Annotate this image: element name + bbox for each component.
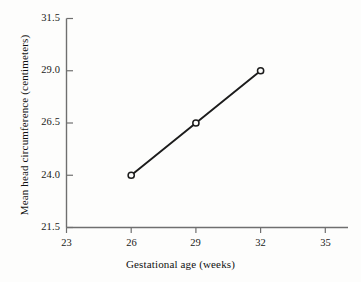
data-point <box>128 172 134 178</box>
chart-figure: 31.5 29.0 26.5 24.0 21.5 23 26 29 32 35 … <box>0 0 361 282</box>
y-tick-marks <box>67 19 74 228</box>
x-tick-label-35: 35 <box>309 237 342 248</box>
y-axis-title: Mean head circumference (centimeters) <box>18 15 30 235</box>
x-tick-label-23: 23 <box>50 237 83 248</box>
x-tick-label-29: 29 <box>179 237 212 248</box>
x-tick-marks <box>67 228 326 234</box>
x-tick-label-26: 26 <box>115 237 148 248</box>
x-tick-label-32: 32 <box>244 237 277 248</box>
data-point <box>258 68 264 74</box>
x-axis-title: Gestational age (weeks) <box>0 258 361 270</box>
data-point <box>193 120 199 126</box>
